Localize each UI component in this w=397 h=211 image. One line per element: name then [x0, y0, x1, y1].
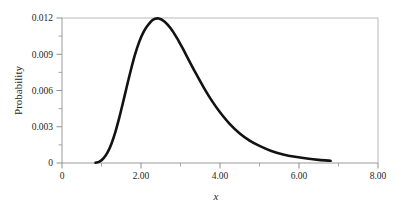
x-tick-label-6: 6.00 [291, 171, 308, 181]
y-tick-label-0009: 0.009 [32, 50, 54, 60]
x-tick-label-0: 0 [60, 171, 65, 181]
y-tick-label-0006: 0.006 [32, 86, 54, 96]
y-axis-title: Probability [12, 66, 24, 115]
y-tick-label-0012: 0.012 [32, 13, 54, 23]
x-tick-label-4: 4.00 [212, 171, 229, 181]
chart-figure: 0 0.003 0.006 0.009 0.012 0 2.00 4.00 6.… [0, 0, 397, 211]
y-tick-label-0: 0 [48, 158, 53, 168]
y-tick-label-0003: 0.003 [32, 122, 54, 132]
x-axis-title: x [213, 190, 219, 202]
x-tick-label-8: 8.00 [370, 171, 387, 181]
probability-distribution-chart: 0 0.003 0.006 0.009 0.012 0 2.00 4.00 6.… [0, 0, 397, 211]
x-tick-label-2: 2.00 [133, 171, 150, 181]
